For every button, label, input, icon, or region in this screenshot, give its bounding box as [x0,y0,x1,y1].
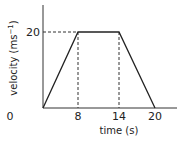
y-tick-20: 20 [26,26,40,39]
y-axis-label: velocity (ms−1) [7,20,19,95]
x-tick-0: 0 [7,110,14,123]
velocity-line [43,32,155,108]
x-tick-14: 14 [112,110,126,123]
velocity-time-chart: 0 8 14 20 20 time (s) velocity (ms−1) [0,0,181,143]
x-tick-20: 20 [148,110,162,123]
x-axis-label: time (s) [100,125,139,136]
x-tick-8: 8 [75,110,82,123]
